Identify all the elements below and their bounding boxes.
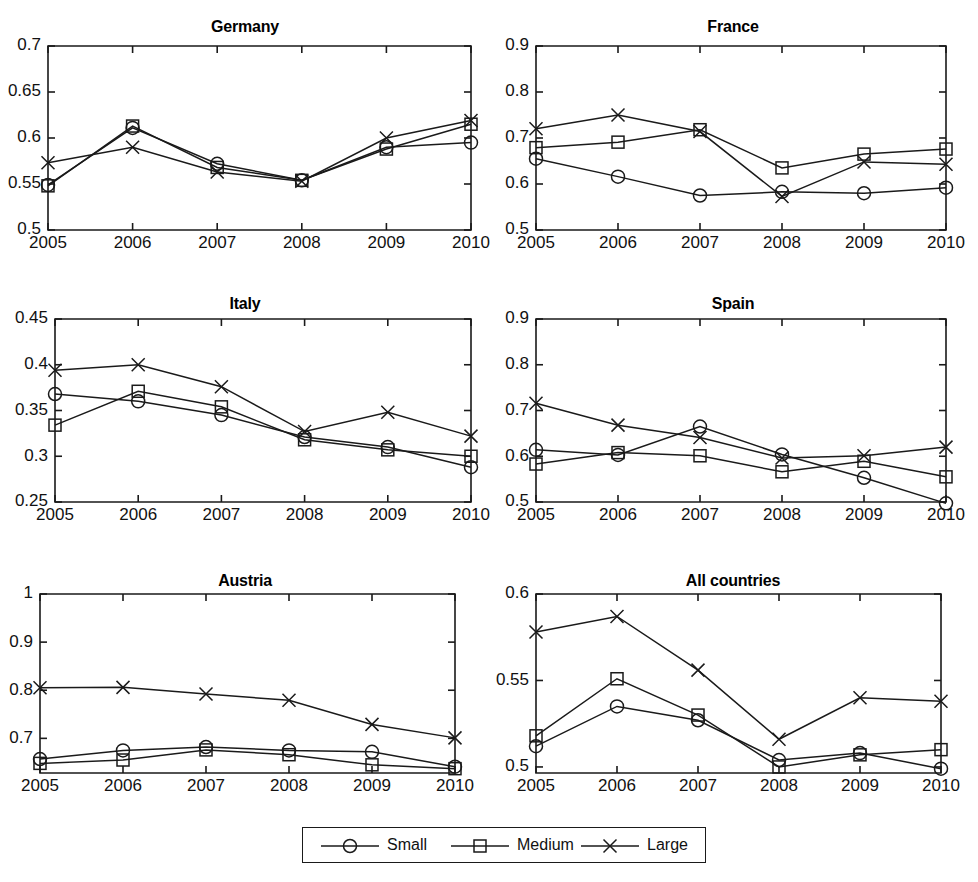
panel-title-spain: Spain bbox=[488, 295, 978, 313]
legend-item-small: Small bbox=[321, 836, 427, 853]
x-tick-label: 2009 bbox=[845, 505, 883, 524]
series-medium bbox=[530, 124, 952, 174]
y-tick-label: 0.6 bbox=[505, 173, 529, 192]
plot-area-all-countries: 0.50.550.6200520062007200820092010 bbox=[488, 572, 978, 822]
legend-content: SmallMediumLarge bbox=[303, 828, 707, 864]
x-tick-label: 2006 bbox=[114, 233, 152, 252]
x-tick-label: 2006 bbox=[119, 505, 157, 524]
y-tick-label: 0.55 bbox=[8, 173, 41, 192]
y-tick-label: 0.3 bbox=[24, 446, 48, 465]
x-tick-label: 2008 bbox=[763, 233, 801, 252]
series-large bbox=[49, 358, 478, 442]
legend-item-large: Large bbox=[581, 836, 688, 853]
y-tick-label: 0.65 bbox=[8, 81, 41, 100]
y-tick-label: 0.9 bbox=[505, 35, 529, 54]
x-tick-label: 2008 bbox=[763, 505, 801, 524]
x-tick-label: 2008 bbox=[760, 776, 798, 795]
y-tick-label: 0.4 bbox=[24, 354, 48, 373]
legend-label: Medium bbox=[517, 836, 574, 853]
y-tick-label: 0.7 bbox=[505, 400, 529, 419]
x-tick-label: 2006 bbox=[598, 776, 636, 795]
x-tick-label: 2010 bbox=[927, 233, 965, 252]
chart-legend: SmallMediumLarge bbox=[302, 827, 706, 863]
panel-title-austria: Austria bbox=[0, 572, 490, 590]
x-tick-label: 2008 bbox=[283, 233, 321, 252]
y-tick-label: 0.9 bbox=[9, 632, 33, 651]
series-medium bbox=[49, 385, 477, 462]
panel-title-france: France bbox=[488, 18, 978, 36]
x-tick-label: 2009 bbox=[841, 776, 879, 795]
series-small bbox=[34, 741, 462, 774]
y-tick-label: 0.7 bbox=[505, 127, 529, 146]
series-large bbox=[530, 397, 953, 465]
series-small bbox=[530, 420, 953, 510]
series-medium bbox=[42, 118, 477, 192]
series-large bbox=[42, 114, 478, 188]
y-tick-label: 0.55 bbox=[496, 670, 529, 689]
series-large bbox=[530, 610, 948, 746]
panel-title-italy: Italy bbox=[0, 295, 490, 313]
y-tick-label: 0.6 bbox=[17, 127, 41, 146]
x-tick-label: 2007 bbox=[187, 776, 225, 795]
x-tick-label: 2005 bbox=[517, 505, 555, 524]
x-tick-label: 2008 bbox=[286, 505, 324, 524]
series-large bbox=[530, 109, 953, 203]
plot-area-germany: 0.50.550.60.650.720052006200720082009201… bbox=[0, 18, 490, 274]
x-tick-label: 2005 bbox=[21, 776, 59, 795]
x-tick-label: 2007 bbox=[681, 233, 719, 252]
x-tick-label: 2005 bbox=[517, 233, 555, 252]
x-tick-label: 2005 bbox=[517, 776, 555, 795]
x-tick-label: 2009 bbox=[369, 505, 407, 524]
x-tick-label: 2010 bbox=[922, 776, 960, 795]
series-large bbox=[34, 681, 462, 745]
y-tick-label: 0.8 bbox=[505, 354, 529, 373]
y-tick-label: 0.8 bbox=[9, 680, 33, 699]
y-tick-label: 0.7 bbox=[9, 728, 33, 747]
x-tick-label: 2007 bbox=[681, 505, 719, 524]
multi-panel-line-chart-figure: Germany 0.50.550.60.650.7200520062007200… bbox=[0, 0, 978, 882]
y-tick-label: 0.7 bbox=[17, 35, 41, 54]
x-tick-label: 2010 bbox=[452, 233, 490, 252]
x-tick-label: 2009 bbox=[353, 776, 391, 795]
chart-panel-all-countries: All countries 0.50.550.62005200620072008… bbox=[488, 572, 978, 822]
x-tick-label: 2005 bbox=[29, 233, 67, 252]
y-tick-label: 0.6 bbox=[505, 446, 529, 465]
plot-area-spain: 0.50.60.70.80.9200520062007200820092010 bbox=[488, 295, 978, 545]
series-small bbox=[42, 121, 478, 191]
series-small bbox=[530, 152, 953, 202]
x-tick-label: 2006 bbox=[104, 776, 142, 795]
x-tick-label: 2005 bbox=[36, 505, 74, 524]
x-tick-label: 2008 bbox=[270, 776, 308, 795]
series-small bbox=[530, 700, 948, 775]
chart-panel-italy: Italy 0.250.30.350.40.452005200620072008… bbox=[0, 295, 490, 545]
x-tick-label: 2007 bbox=[198, 233, 236, 252]
panel-title-germany: Germany bbox=[0, 18, 490, 36]
chart-panel-germany: Germany 0.50.550.60.650.7200520062007200… bbox=[0, 18, 490, 274]
x-tick-label: 2006 bbox=[599, 505, 637, 524]
x-tick-label: 2009 bbox=[367, 233, 405, 252]
legend-item-medium: Medium bbox=[451, 836, 574, 853]
y-tick-label: 0.8 bbox=[505, 81, 529, 100]
x-tick-label: 2007 bbox=[202, 505, 240, 524]
plot-area-austria: 0.70.80.91200520062007200820092010 bbox=[0, 572, 490, 822]
chart-panel-austria: Austria 0.70.80.912005200620072008200920… bbox=[0, 572, 490, 822]
panel-title-all-countries: All countries bbox=[488, 572, 978, 590]
chart-panel-spain: Spain 0.50.60.70.80.92005200620072008200… bbox=[488, 295, 978, 545]
y-tick-label: 0.5 bbox=[505, 756, 529, 775]
x-tick-label: 2006 bbox=[599, 233, 637, 252]
x-tick-label: 2007 bbox=[679, 776, 717, 795]
x-tick-label: 2010 bbox=[436, 776, 474, 795]
plot-area-italy: 0.250.30.350.40.452005200620072008200920… bbox=[0, 295, 490, 545]
chart-panel-france: France 0.50.60.70.80.9200520062007200820… bbox=[488, 18, 978, 274]
series-small bbox=[49, 388, 478, 474]
y-tick-label: 0.35 bbox=[15, 400, 48, 419]
plot-area-france: 0.50.60.70.80.9200520062007200820092010 bbox=[488, 18, 978, 274]
x-tick-label: 2010 bbox=[452, 505, 490, 524]
legend-label: Large bbox=[647, 836, 688, 853]
legend-label: Small bbox=[387, 836, 427, 853]
series-medium bbox=[530, 447, 952, 483]
x-tick-label: 2009 bbox=[845, 233, 883, 252]
x-tick-label: 2010 bbox=[927, 505, 965, 524]
